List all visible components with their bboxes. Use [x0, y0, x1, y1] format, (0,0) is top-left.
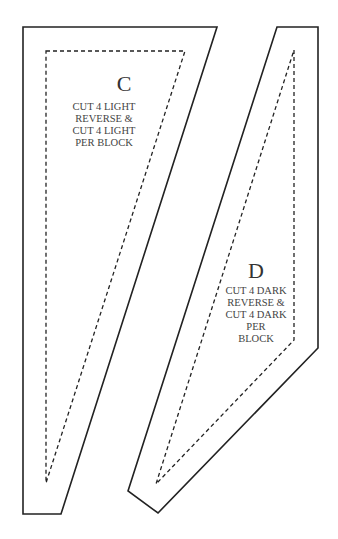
piece-d-instruction-2: REVERSE &: [227, 297, 284, 308]
piece-d-instruction-1: CUT 4 DARK: [225, 285, 286, 296]
piece-d: D CUT 4 DARK REVERSE & CUT 4 DARK PER BL…: [128, 27, 318, 513]
piece-d-cutting-line: [128, 27, 318, 513]
piece-c-instruction-4: PER BLOCK: [75, 137, 133, 148]
piece-d-instruction-5: BLOCK: [238, 333, 274, 344]
piece-c-instruction-2: REVERSE &: [75, 113, 132, 124]
piece-c: C CUT 4 LIGHT REVERSE & CUT 4 LIGHT PER …: [23, 27, 217, 514]
quilt-template-diagram: C CUT 4 LIGHT REVERSE & CUT 4 LIGHT PER …: [0, 0, 338, 539]
piece-d-instruction-4: PER: [246, 321, 265, 332]
piece-d-seam-line: [156, 50, 294, 484]
piece-c-instruction-1: CUT 4 LIGHT: [73, 101, 136, 112]
piece-d-instruction-3: CUT 4 DARK: [225, 309, 286, 320]
piece-d-letter: D: [248, 258, 264, 283]
piece-c-instruction-3: CUT 4 LIGHT: [73, 125, 136, 136]
piece-c-letter: C: [117, 71, 132, 96]
